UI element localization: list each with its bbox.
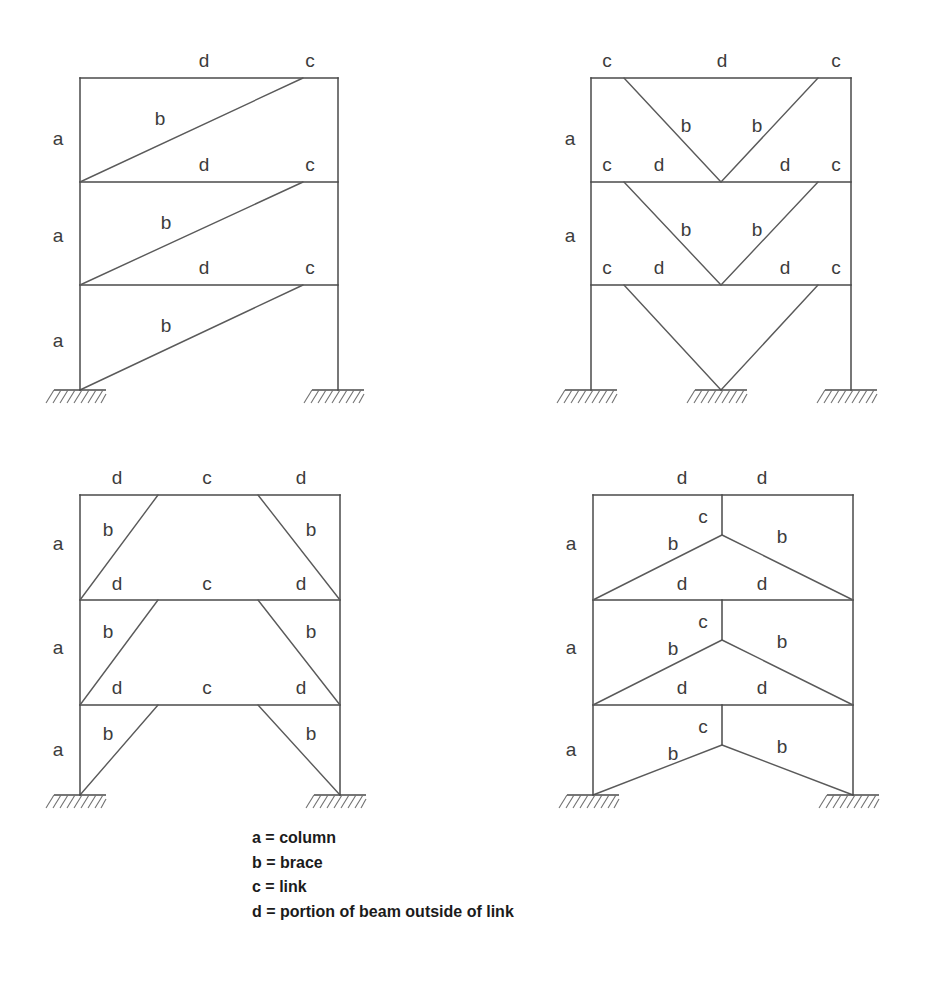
label-b: b xyxy=(155,108,166,129)
frame-top-left-labels: d c a b d c a b d c a b xyxy=(53,50,315,351)
frame-bottom-right-labels: d d c a b b d d c a b b d d c a b b xyxy=(566,467,788,764)
label-b: b xyxy=(306,621,317,642)
frame-bottom-right-braces xyxy=(593,535,853,795)
label-c: c xyxy=(602,50,612,71)
label-b: b xyxy=(668,638,679,659)
brace-story-1-right xyxy=(721,285,818,390)
label-d: d xyxy=(112,677,123,698)
label-d: d xyxy=(199,257,210,278)
label-d: d xyxy=(296,573,307,594)
label-a: a xyxy=(53,225,64,246)
frame-top-right-columns xyxy=(591,78,851,390)
label-d: d xyxy=(717,50,728,71)
label-c: c xyxy=(202,467,212,488)
support-left xyxy=(46,390,106,403)
label-c: c xyxy=(831,50,841,71)
label-b: b xyxy=(103,723,114,744)
frame-top-left: d c a b d c a b d c a b xyxy=(46,50,364,403)
label-d: d xyxy=(112,573,123,594)
frame-bottom-right-beams xyxy=(593,495,853,705)
brace-story-1-left xyxy=(593,745,722,795)
legend-row-brace: b = brace xyxy=(252,851,672,876)
legend-row-beam-portion: d = portion of beam outside of link xyxy=(252,900,672,925)
label-d: d xyxy=(654,257,665,278)
label-a: a xyxy=(566,739,577,760)
brace-story-1 xyxy=(80,285,303,390)
support-right xyxy=(304,390,364,403)
label-b: b xyxy=(752,219,763,240)
label-a: a xyxy=(53,330,64,351)
brace-story-1-left xyxy=(80,705,158,795)
label-d: d xyxy=(296,677,307,698)
frame-top-right-braces xyxy=(624,78,818,390)
label-d: d xyxy=(677,573,688,594)
label-b: b xyxy=(161,212,172,233)
label-c: c xyxy=(305,50,315,71)
brace-story-2-left xyxy=(624,182,721,285)
label-a: a xyxy=(565,128,576,149)
label-a: a xyxy=(566,637,577,658)
eccentrically-braced-frame-diagram: d c a b d c a b d c a b xyxy=(0,0,939,994)
label-a: a xyxy=(53,637,64,658)
label-c: c xyxy=(698,716,708,737)
label-c: c xyxy=(831,257,841,278)
brace-story-2-right xyxy=(722,640,853,705)
frame-top-left-braces xyxy=(80,78,303,390)
label-c: c xyxy=(305,154,315,175)
label-b: b xyxy=(306,723,317,744)
label-d: d xyxy=(780,154,791,175)
label-c: c xyxy=(202,677,212,698)
frame-top-left-columns xyxy=(80,78,338,390)
brace-story-3-left xyxy=(624,78,721,182)
label-b: b xyxy=(681,115,692,136)
label-c: c xyxy=(698,506,708,527)
support-center xyxy=(687,390,747,403)
label-d: d xyxy=(757,467,768,488)
label-d: d xyxy=(654,154,665,175)
legend-row-link: c = link xyxy=(252,875,672,900)
frame-bottom-left-beams xyxy=(80,495,340,705)
support-left xyxy=(46,795,106,808)
label-d: d xyxy=(677,677,688,698)
label-d: d xyxy=(677,467,688,488)
label-a: a xyxy=(53,739,64,760)
frame-bottom-right-columns xyxy=(593,495,853,795)
support-left xyxy=(557,390,617,403)
label-a: a xyxy=(53,128,64,149)
label-b: b xyxy=(668,743,679,764)
label-b: b xyxy=(306,519,317,540)
brace-story-3 xyxy=(80,78,303,182)
frame-bottom-left: d c d a b b d c d a b b d c d a b b xyxy=(46,467,366,808)
label-d: d xyxy=(780,257,791,278)
frame-top-right: c d c a b b c d d c a b b c d d c xyxy=(557,50,877,403)
label-d: d xyxy=(199,50,210,71)
support-left xyxy=(559,795,619,808)
label-d: d xyxy=(112,467,123,488)
frame-bottom-left-labels: d c d a b b d c d a b b d c d a b b xyxy=(53,467,317,760)
brace-story-3-right xyxy=(722,535,853,600)
brace-story-2 xyxy=(80,182,303,285)
brace-story-3-right xyxy=(721,78,818,182)
label-c: c xyxy=(602,154,612,175)
label-c: c xyxy=(602,257,612,278)
label-d: d xyxy=(199,154,210,175)
support-right xyxy=(819,795,879,808)
brace-story-1-right xyxy=(722,745,853,795)
label-c: c xyxy=(202,573,212,594)
label-b: b xyxy=(103,519,114,540)
label-a: a xyxy=(53,533,64,554)
label-d: d xyxy=(296,467,307,488)
label-b: b xyxy=(103,621,114,642)
frame-top-left-supports xyxy=(46,390,364,403)
label-b: b xyxy=(777,526,788,547)
label-b: b xyxy=(681,219,692,240)
brace-story-2-left xyxy=(593,640,722,705)
label-c: c xyxy=(305,257,315,278)
frame-bottom-left-braces xyxy=(80,495,340,795)
brace-story-3-left xyxy=(593,535,722,600)
frame-bottom-right-supports xyxy=(559,795,879,808)
label-a: a xyxy=(565,225,576,246)
label-b: b xyxy=(752,115,763,136)
label-d: d xyxy=(757,573,768,594)
label-c: c xyxy=(831,154,841,175)
